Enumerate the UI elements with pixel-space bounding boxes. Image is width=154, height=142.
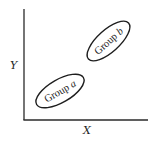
group-b-cluster: Group b bbox=[81, 15, 136, 67]
x-axis-label: X bbox=[82, 124, 92, 137]
group-a-letter: a bbox=[68, 78, 78, 90]
y-axis-label: Y bbox=[10, 59, 19, 72]
group-b-label: Group b bbox=[92, 25, 125, 56]
group-b-letter: b bbox=[114, 25, 125, 37]
group-a-cluster: Group a bbox=[31, 68, 89, 115]
group-a-label: Group a bbox=[42, 78, 78, 105]
group-b-prefix: Group bbox=[92, 31, 119, 57]
diagram-canvas: Y X Group a Group b bbox=[0, 0, 154, 142]
